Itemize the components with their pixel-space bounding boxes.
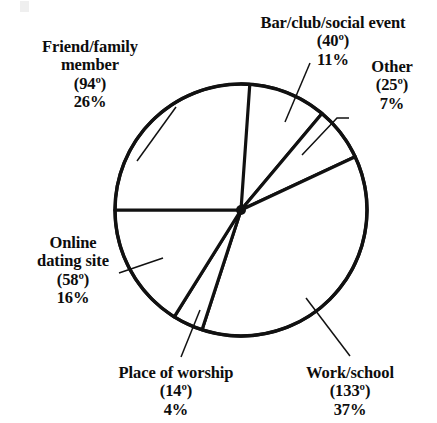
slice-label-text: Friend/family — [14, 38, 166, 56]
slice-label-degrees: (94º) — [14, 75, 166, 93]
pie-chart-figure: Bar/club/social event (40º) 11% Other (2… — [0, 0, 437, 423]
pie-center-hub — [236, 205, 246, 215]
slice-label-text: Work/school — [275, 364, 425, 382]
slice-label-percent: 7% — [352, 95, 432, 113]
slice-label-text: Bar/club/social event — [233, 14, 433, 32]
work-school-leader — [306, 298, 350, 356]
slice-label-place-of-worship: Place of worship (14º) 4% — [88, 364, 264, 419]
slice-label-degrees: (25º) — [352, 76, 432, 94]
slice-label-text-2: member — [14, 56, 166, 74]
slice-label-percent: 4% — [88, 401, 264, 419]
slice-label-friend-family-member: Friend/family member (94º) 26% — [14, 38, 166, 112]
slice-label-other: Other (25º) 7% — [352, 58, 432, 113]
slice-label-text-2: dating site — [2, 252, 144, 270]
slice-label-percent: 26% — [14, 93, 166, 111]
slice-label-text: Place of worship — [88, 364, 264, 382]
slice-label-work-school: Work/school (133º) 37% — [275, 364, 425, 419]
slice-label-percent: 37% — [275, 401, 425, 419]
slice-label-degrees: (133º) — [275, 382, 425, 400]
slice-label-percent: 16% — [2, 289, 144, 307]
slice-label-degrees: (58º) — [2, 271, 144, 289]
slice-label-degrees: (14º) — [88, 382, 264, 400]
slice-label-degrees: (40º) — [233, 32, 433, 50]
slice-label-text: Other — [352, 58, 432, 76]
slice-label-online-dating-site: Online dating site (58º) 16% — [2, 234, 144, 308]
slice-label-text: Online — [2, 234, 144, 252]
